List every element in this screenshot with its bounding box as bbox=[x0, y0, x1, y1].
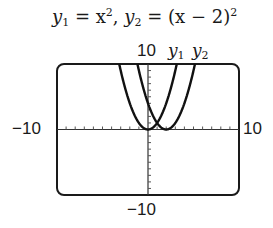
curve-y2 bbox=[137, 64, 195, 129]
plot-area bbox=[0, 0, 273, 228]
